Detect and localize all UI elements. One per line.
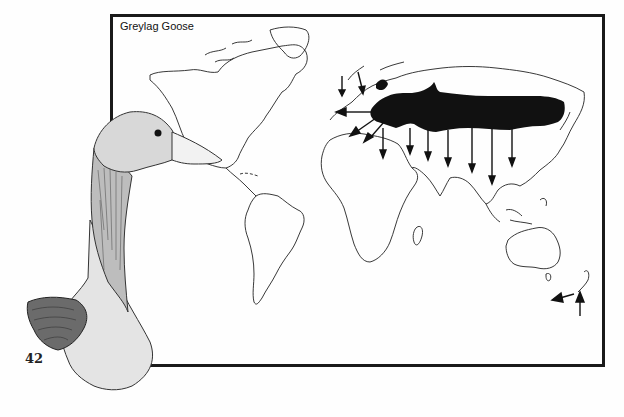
greenland-outline bbox=[270, 27, 309, 58]
arrow-south bbox=[509, 126, 515, 166]
arrow-south bbox=[425, 130, 431, 160]
goose-illustration bbox=[27, 112, 222, 390]
caribbean-outline bbox=[240, 173, 258, 176]
arrow-south bbox=[445, 130, 451, 166]
arrow-south bbox=[469, 128, 475, 172]
arrow-south bbox=[380, 128, 386, 158]
goose-beak bbox=[172, 132, 222, 164]
world-map bbox=[0, 0, 624, 417]
africa-outline bbox=[321, 133, 417, 262]
south-america-outline bbox=[245, 194, 304, 304]
asia-outline bbox=[396, 67, 584, 205]
arrow-down-small bbox=[358, 72, 365, 94]
new-zealand-outline bbox=[578, 271, 589, 292]
arrow-west bbox=[336, 108, 372, 116]
arrow-down-small bbox=[339, 76, 345, 96]
tasmania-outline bbox=[546, 273, 551, 280]
arrow-southwest bbox=[350, 118, 376, 136]
arctic-islands-outline bbox=[205, 40, 252, 62]
page-number: 42 bbox=[25, 351, 43, 366]
arrow-nz-west bbox=[552, 293, 574, 302]
arrow-south bbox=[407, 128, 413, 154]
arrow-nz-up bbox=[576, 292, 584, 316]
breeding-range bbox=[370, 82, 564, 132]
book-page: Greylag Goose 42 bbox=[0, 0, 624, 417]
arrow-south bbox=[489, 128, 495, 184]
goose-eye bbox=[155, 130, 162, 137]
southeast-asia-islands-outline bbox=[486, 198, 547, 224]
continent-outlines bbox=[150, 27, 589, 304]
australia-outline bbox=[506, 227, 560, 268]
map-title: Greylag Goose bbox=[120, 20, 194, 32]
range-patch-scandinavia bbox=[376, 80, 388, 91]
madagascar-outline bbox=[413, 226, 422, 244]
central-america-outline bbox=[226, 168, 256, 196]
goose-head bbox=[94, 112, 177, 172]
